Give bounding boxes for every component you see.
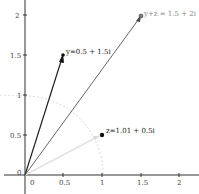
y-tick-label-1.5: 1.5	[10, 52, 21, 60]
y-tick-label-0.5: 0.5	[10, 132, 21, 140]
vector-sum	[25, 16, 141, 175]
y-tick-label-1: 1	[17, 92, 21, 100]
point-sum-label: y+z = 1.5 + 2i	[143, 10, 197, 18]
x-tick-label-1.5: 1.5	[137, 179, 148, 187]
point-z[interactable]	[100, 133, 104, 137]
y-tick-label-2: 2	[15, 12, 19, 20]
x-tick-label-2: 2	[177, 179, 181, 187]
point-y[interactable]	[61, 53, 65, 57]
point-z-label: z=1.01 + 0.5i	[106, 127, 156, 135]
y-tick-label-0: 0	[17, 169, 21, 177]
x-tick-label-0: 0	[30, 179, 34, 187]
vector-y	[25, 55, 63, 175]
complex-plane: 0 0.5 1 1.5 2 2 1.5 1 0.5 0 z=1.01 + 0.5…	[0, 0, 199, 194]
x-tick-label-1: 1	[100, 179, 104, 187]
point-sum[interactable]	[139, 14, 143, 18]
unit-circle-arc	[25, 96, 103, 175]
x-tick-label-0.5: 0.5	[59, 179, 70, 187]
point-y-label: y=0.5 + 1.5i	[65, 48, 111, 56]
